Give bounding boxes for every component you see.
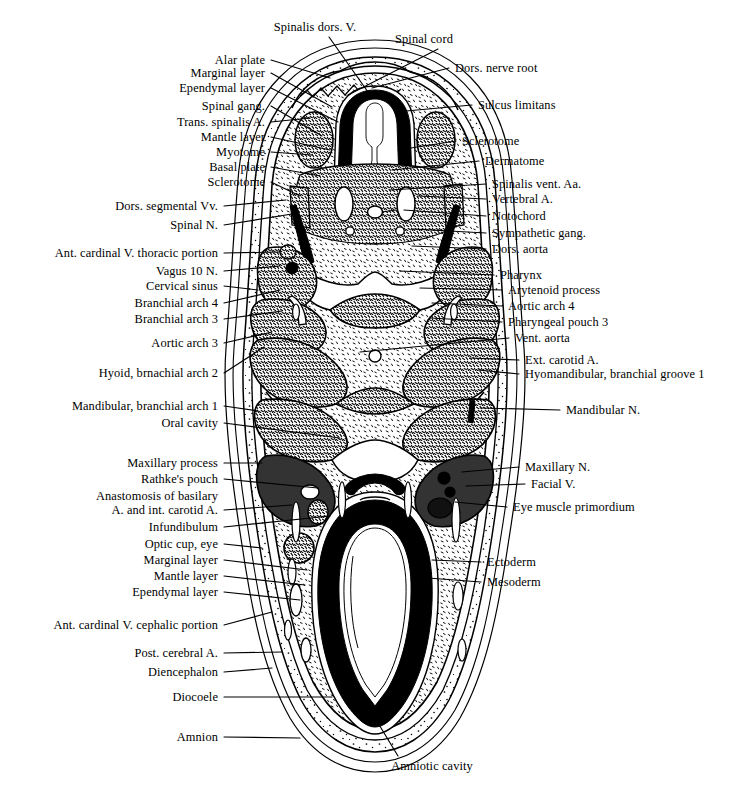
- label-facial-v: Facial V.: [531, 478, 576, 491]
- maxillary-nerve: [438, 472, 450, 484]
- label-a-and-int-carotid-a: A. and int. carotid A.: [112, 504, 218, 517]
- label-mantle-layer: Mantle layer: [154, 570, 218, 583]
- label-mesoderm: Mesoderm: [487, 576, 541, 589]
- label-vagus-10-n: Vagus 10 N.: [156, 265, 218, 278]
- vessel-slit-c: [452, 498, 460, 542]
- vessel-slit-e: [453, 582, 463, 610]
- label-oral-cavity: Oral cavity: [162, 417, 219, 430]
- sympathetic-gang-right: [396, 227, 404, 235]
- vessel-slit-g: [458, 639, 466, 661]
- label-notochord: Notochord: [492, 210, 546, 223]
- label-amniotic-cavity: Amniotic cavity: [391, 760, 473, 773]
- label-dors-segmental-vv: Dors. segmental Vv.: [115, 200, 218, 213]
- label-diocoele: Diocoele: [172, 691, 218, 704]
- label-arytenoid-process: Arytenoid process: [508, 284, 600, 297]
- facial-vein: [445, 487, 455, 497]
- vessel-slit-d: [292, 502, 300, 542]
- vessel-slit-b: [405, 482, 412, 518]
- eye-muscle-primordium: [428, 498, 452, 518]
- label-ant-cardinal-v-cephalic-portion: Ant. cardinal V. cephalic portion: [53, 619, 218, 632]
- vessel-slit-h: [285, 620, 292, 640]
- label-cervical-sinus: Cervical sinus: [146, 280, 218, 293]
- vent-aorta-lumen: [369, 350, 381, 362]
- label-optic-cup-eye: Optic cup, eye: [145, 538, 218, 551]
- label-dermatome: Dermatome: [485, 155, 544, 168]
- notochord: [368, 206, 383, 218]
- leader-line-amnion: [224, 737, 300, 738]
- label-hyomandibular-branchial-groove-1: Hyomandibular, branchial groove 1: [525, 368, 705, 381]
- vagus-10-nerve: [286, 262, 298, 274]
- label-sulcus-limitans: Sulcus limitans: [478, 99, 556, 112]
- label-pharyngeal-pouch-3: Pharyngeal pouch 3: [508, 316, 608, 329]
- label-spinal-n: Spinal N.: [170, 219, 218, 232]
- anastomosis-basilar-carotid: [308, 500, 328, 524]
- sympathetic-gang-left: [346, 227, 354, 235]
- label-mandibular-n: Mandibular N.: [566, 404, 640, 417]
- label-eye-muscle-primordium: Eye muscle primordium: [513, 501, 635, 514]
- dorsal-aorta-right: [397, 187, 415, 221]
- label-infundibulum: Infundibulum: [149, 521, 218, 534]
- label-ependymal-layer: Ependymal layer: [132, 586, 218, 599]
- label-basal-plate: Basal plate: [209, 161, 265, 174]
- label-dors-aorta: Dors. aorta: [492, 243, 548, 256]
- label-sclerotome: Sclerotome: [208, 176, 265, 189]
- label-branchial-arch-4: Branchial arch 4: [135, 297, 218, 310]
- label-spinalis-dors-v: Spinalis dors. V.: [274, 21, 357, 34]
- label-rathke-s-pouch: Rathke's pouch: [141, 473, 218, 486]
- label-mandibular-branchial-arch-1: Mandibular, branchial arch 1: [72, 400, 218, 413]
- label-spinal-cord: Spinal cord: [395, 33, 453, 46]
- label-anastomosis-of-basilary: Anastomosis of basilary: [96, 490, 218, 503]
- label-vent-aorta: Vent. aorta: [515, 332, 570, 345]
- label-vertebral-a: Vertebral A.: [492, 193, 553, 206]
- label-sympathetic-gang: Sympathetic gang.: [492, 227, 586, 240]
- label-ependymal-layer: Ependymal layer: [179, 82, 265, 95]
- label-myotome: Myotome: [216, 146, 265, 159]
- figure-canvas: Alar plateMarginal layerEpendymal layerS…: [0, 0, 751, 799]
- label-amnion: Amnion: [177, 731, 218, 744]
- label-ectoderm: Ectoderm: [487, 556, 536, 569]
- dorsal-aorta-left: [335, 187, 353, 221]
- ant-cardinal-v-thoracic: [280, 245, 296, 259]
- label-dors-nerve-root: Dors. nerve root: [455, 62, 537, 75]
- spinal-ganglion-right: [417, 112, 455, 168]
- label-marginal-layer: Marginal layer: [191, 67, 265, 80]
- label-aortic-arch-4: Aortic arch 4: [508, 300, 575, 313]
- label-branchial-arch-3: Branchial arch 3: [135, 313, 218, 326]
- label-pharynx: Pharynx: [500, 269, 542, 282]
- label-mantle-layer: Mantle layer: [201, 131, 265, 144]
- aortic-arch-3-left: [293, 304, 300, 320]
- label-maxillary-n: Maxillary N.: [525, 461, 590, 474]
- label-post-cerebral-a: Post. cerebral A.: [134, 647, 218, 660]
- aortic-arch-4-right: [451, 304, 458, 320]
- label-marginal-layer: Marginal layer: [144, 554, 218, 567]
- label-spinalis-vent-aa: Spinalis vent. Aa.: [492, 178, 581, 191]
- label-diencephalon: Diencephalon: [148, 666, 218, 679]
- post-cerebral-artery: [301, 638, 311, 662]
- label-aortic-arch-3: Aortic arch 3: [151, 337, 218, 350]
- label-maxillary-process: Maxillary process: [127, 457, 218, 470]
- vessel-slit-f: [288, 559, 296, 585]
- label-ant-cardinal-v-thoracic-portion: Ant. cardinal V. thoracic portion: [55, 247, 218, 260]
- spinal-ganglion-left: [295, 112, 333, 168]
- label-hyoid-brnachial-arch-2: Hyoid, brnachial arch 2: [99, 367, 218, 380]
- label-sclerotome: Sclerotome: [462, 135, 519, 148]
- label-ext-carotid-a: Ext. carotid A.: [525, 354, 599, 367]
- label-spinal-gang: Spinal gang.: [202, 100, 265, 113]
- label-trans-spinalis-a: Trans. spinalis A.: [177, 116, 265, 129]
- vessel-slit-a: [339, 482, 346, 518]
- leader-line-diencephalon: [224, 668, 272, 672]
